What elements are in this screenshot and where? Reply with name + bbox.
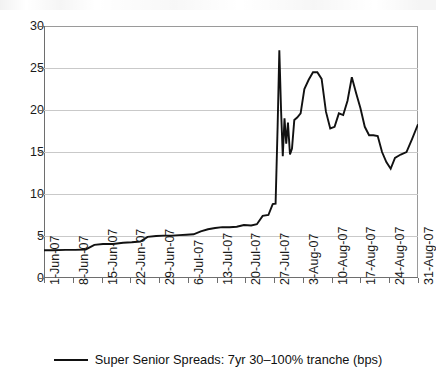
x-tick-label-12: 24-Aug-07 xyxy=(394,227,407,285)
x-tick-mark-6 xyxy=(217,278,218,283)
x-tick-mark-3 xyxy=(130,278,131,283)
x-tick-mark-8 xyxy=(274,278,275,283)
x-tick-mark-0 xyxy=(44,278,45,283)
x-tick-label-11: 17-Aug-07 xyxy=(365,227,378,285)
x-tick-mark-1 xyxy=(73,278,74,283)
legend-line-sample xyxy=(54,359,88,361)
chart-root: 051015202530 1-Jun-078-Jun-0715-Jun-0722… xyxy=(0,0,436,380)
x-tick-label-5: 6-Jul-07 xyxy=(193,240,206,285)
x-tick-label-2: 15-Jun-07 xyxy=(107,229,120,285)
x-tick-label-10: 10-Aug-07 xyxy=(337,227,350,285)
x-axis: 1-Jun-078-Jun-0715-Jun-0722-Jun-0729-Jun… xyxy=(0,278,436,358)
x-tick-mark-5 xyxy=(188,278,189,283)
x-tick-mark-12 xyxy=(389,278,390,283)
x-tick-mark-4 xyxy=(159,278,160,283)
legend: Super Senior Spreads: 7yr 30–100% tranch… xyxy=(0,352,436,367)
x-tick-label-0: 1-Jun-07 xyxy=(49,236,62,285)
x-tick-mark-2 xyxy=(102,278,103,283)
x-tick-mark-11 xyxy=(360,278,361,283)
x-tick-label-9: 3-Aug-07 xyxy=(308,234,321,285)
x-tick-label-13: 31-Aug-07 xyxy=(423,227,436,285)
x-tick-mark-13 xyxy=(418,278,419,283)
series-line-super-senior-spreads xyxy=(44,50,418,250)
x-tick-label-3: 22-Jun-07 xyxy=(135,229,148,285)
x-tick-label-7: 20-Jul-07 xyxy=(250,233,263,285)
x-tick-label-8: 27-Jul-07 xyxy=(279,233,292,285)
x-tick-label-6: 13-Jul-07 xyxy=(222,233,235,285)
x-tick-mark-7 xyxy=(245,278,246,283)
x-tick-mark-9 xyxy=(303,278,304,283)
x-tick-label-1: 8-Jun-07 xyxy=(78,236,91,285)
x-tick-label-4: 29-Jun-07 xyxy=(164,229,177,285)
scan-artifact xyxy=(0,0,436,10)
legend-label: Super Senior Spreads: 7yr 30–100% tranch… xyxy=(95,352,382,367)
x-tick-mark-10 xyxy=(332,278,333,283)
y-axis: 051015202530 xyxy=(0,0,44,290)
